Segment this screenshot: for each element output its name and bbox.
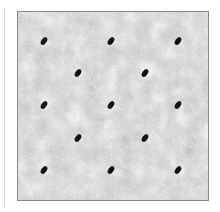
micrograph-texture xyxy=(18,12,208,200)
micrograph-image xyxy=(17,11,209,201)
side-divider-line xyxy=(4,8,5,206)
